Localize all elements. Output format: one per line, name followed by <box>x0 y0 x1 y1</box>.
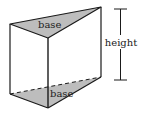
prism-diagram: base base height <box>0 0 142 115</box>
height-label: height <box>105 37 137 48</box>
top-base-label: base <box>38 19 61 30</box>
bottom-base-label: base <box>50 88 73 99</box>
